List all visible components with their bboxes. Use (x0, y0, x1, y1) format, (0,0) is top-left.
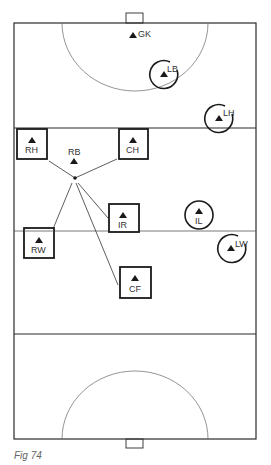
player-label-rh: RH (25, 145, 38, 155)
pass-line-ir (78, 183, 108, 218)
player-label-il: IL (195, 216, 203, 226)
player-lw: LW (218, 235, 249, 263)
rb-ball-dot (73, 176, 77, 180)
bottom-shooting-circle (62, 371, 208, 439)
top-shooting-circle (62, 23, 208, 91)
player-triangle-icon (70, 158, 78, 164)
player-label-lb: LB (167, 64, 178, 74)
player-label-lw: LW (235, 239, 248, 249)
player-ch: CH (119, 129, 148, 159)
player-il: IL (185, 201, 213, 229)
pass-line-ch (75, 159, 117, 178)
player-gk: GK (129, 29, 151, 39)
player-ir: IR (109, 204, 139, 232)
player-triangle-icon (195, 208, 203, 214)
player-label-rw: RW (31, 245, 46, 255)
player-cf: CF (120, 267, 151, 298)
player-label-lh: LH (223, 108, 235, 118)
player-label-ir: IR (118, 220, 128, 230)
player-triangle-icon (129, 32, 137, 38)
player-lb: LB (150, 61, 178, 89)
player-label-gk: GK (138, 29, 151, 39)
bottom-goal (126, 439, 143, 448)
player-triangle-icon (215, 115, 223, 121)
pass-line-cf (76, 183, 118, 285)
player-label-rb: RB (68, 147, 81, 157)
top-goal (126, 13, 143, 23)
player-rh: RH (17, 129, 47, 159)
player-rb: RB (68, 147, 81, 164)
player-label-cf: CF (129, 284, 141, 294)
passing-lines (49, 159, 118, 285)
player-triangle-icon (227, 245, 235, 251)
player-label-ch: CH (126, 145, 139, 155)
pass-line-rw (53, 183, 72, 229)
figure-caption: Fig 74 (14, 450, 42, 461)
player-rw: RW (24, 228, 54, 258)
hockey-pitch-diagram: GK LB LH RH CH RB IR IL (0, 0, 271, 465)
